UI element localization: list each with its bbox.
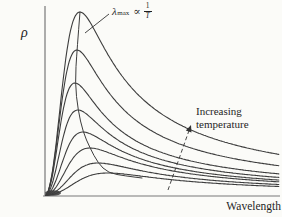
proportional-symbol: ∝ [133,5,140,18]
arrowhead-icon [186,125,192,133]
x-axis-label: Wavelength [206,200,281,212]
one-over-T-fraction: 1 T [144,2,152,20]
fraction-denominator: T [144,12,152,21]
origin-ink-blob [45,190,61,196]
blackbody-figure: ρ λmax ∝ 1 T Increasing temperature Wave… [0,0,282,217]
planck-curve [46,148,279,195]
y-axis-label: ρ [21,25,28,41]
lambda-symbol: λ [112,5,117,17]
max-subscript: max [117,10,129,17]
annotation-pointer-line [85,14,109,33]
lambda-max-annotation: λmax ∝ 1 T [112,2,152,20]
increasing-temperature-line2: temperature [196,118,249,131]
increasing-temperature-line1: Increasing [196,105,249,118]
increasing-temperature-label: Increasing temperature [196,105,249,131]
planck-curve [46,132,279,195]
planck-curve [46,173,279,196]
